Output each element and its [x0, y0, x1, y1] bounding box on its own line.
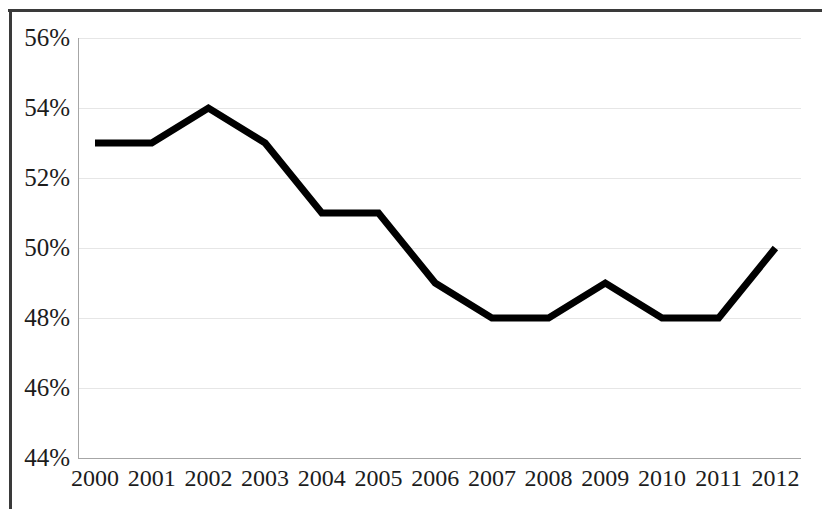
gridline-46%: [78, 388, 801, 389]
gridline-54%: [78, 108, 801, 109]
y-tick-label: 54%: [0, 95, 70, 120]
y-tick-label: 56%: [0, 25, 70, 50]
figure-frame-top-border: [8, 9, 822, 12]
y-tick-label: 48%: [0, 305, 70, 330]
data-series-line: [0, 0, 822, 509]
gridline-50%: [78, 248, 801, 249]
y-axis-line: [78, 38, 79, 459]
y-tick-label: 52%: [0, 165, 70, 190]
gridline-52%: [78, 178, 801, 179]
y-tick-label: 50%: [0, 235, 70, 260]
gridline-48%: [78, 318, 801, 319]
y-tick-label: 46%: [0, 375, 70, 400]
x-tick-label: 2012: [740, 466, 810, 490]
gridline-56%: [78, 38, 801, 39]
x-axis-line: [78, 458, 801, 459]
chart-figure: 56%54%52%50%48%46%44% 200020012002200320…: [0, 0, 822, 509]
